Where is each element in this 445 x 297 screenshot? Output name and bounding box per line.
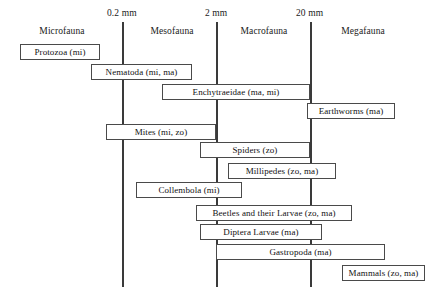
zone-label-mesofauna: Mesofauna	[127, 26, 217, 36]
soil-fauna-size-diagram: 0.2 mm 2 mm 20 mm Microfauna Mesofauna M…	[0, 0, 445, 297]
taxon-box-diptera-larvae: Diptera Larvae (ma)	[200, 224, 322, 240]
taxon-box-nematoda: Nematoda (mi, ma)	[91, 64, 192, 80]
taxon-box-beetles: Beetles and their Larvae (zo, ma)	[196, 205, 352, 221]
scale-label-20mm: 20 mm	[296, 8, 323, 18]
taxon-box-collembola: Collembola (mi)	[136, 182, 242, 198]
divider-line-0-2mm	[122, 22, 124, 287]
taxon-box-millipedes: Millipedes (zo, ma)	[228, 163, 336, 179]
taxon-box-earthworms: Earthworms (ma)	[307, 103, 395, 119]
taxon-box-enchytraeidae: Enchytraeidae (ma, mi)	[162, 84, 310, 100]
taxon-box-protozoa: Protozoa (mi)	[20, 44, 100, 60]
scale-label-2mm: 2 mm	[205, 8, 227, 18]
taxon-box-mammals: Mammals (zo, ma)	[342, 265, 425, 281]
taxon-box-gastropoda: Gastropoda (ma)	[216, 244, 385, 260]
taxon-box-spiders: Spiders (zo)	[200, 142, 310, 158]
taxon-box-mites: Mites (mi, zo)	[106, 124, 216, 140]
scale-label-0-2mm: 0.2 mm	[107, 8, 137, 18]
zone-label-megafauna: Megafauna	[315, 26, 411, 36]
zone-label-microfauna: Microfauna	[12, 26, 112, 36]
zone-label-macrofauna: Macrofauna	[220, 26, 308, 36]
